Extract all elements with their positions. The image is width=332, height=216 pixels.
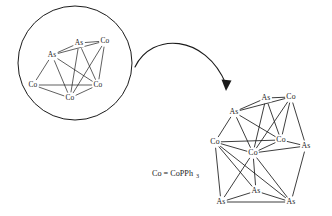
arrow-curve-line xyxy=(135,43,226,84)
magnification-arrow xyxy=(135,43,232,91)
atom-label-co: Co xyxy=(29,80,38,89)
cluster-diagram: AsCoAsCoCoCo AsCoAsCoCoCoAsAsAsAs Co = C… xyxy=(0,0,332,216)
atom-label-co: Co xyxy=(94,80,103,89)
figure-canvas: AsCoAsCoCoCo AsCoAsCoCoCoAsAsAsAs Co = C… xyxy=(0,0,332,216)
bond-as-as xyxy=(262,193,285,200)
bond-as-as xyxy=(293,152,305,196)
bond-co-as xyxy=(287,141,300,144)
atom-label-co: Co xyxy=(248,148,257,157)
inset-atom-group: AsCoAsCoCoCo xyxy=(28,36,111,102)
bond-as-co xyxy=(71,49,78,92)
bond-as-co xyxy=(85,41,99,42)
arrow-head-icon xyxy=(222,80,232,92)
bond-as-co xyxy=(54,61,67,93)
atom-label-co: Co xyxy=(286,92,295,101)
legend-label: Co = CoPPh xyxy=(152,169,193,178)
full-cluster: AsCoAsCoCoCoAsAsAsAs xyxy=(210,92,312,206)
legend: Co = CoPPh 3 xyxy=(152,169,199,179)
atom-label-as: As xyxy=(262,93,271,102)
bond-co-as xyxy=(253,159,255,185)
bond-co-as xyxy=(224,158,249,197)
atom-label-co: Co xyxy=(210,137,219,146)
bond-as-co xyxy=(82,49,96,80)
atom-label-as: As xyxy=(230,107,239,116)
bond-co-co xyxy=(39,87,64,96)
magnifier-circle xyxy=(18,6,132,120)
bond-as-co xyxy=(272,97,285,98)
bond-as-co xyxy=(237,118,251,148)
bond-as-co xyxy=(218,117,230,137)
bond-as-as xyxy=(227,193,250,200)
atom-label-co: Co xyxy=(101,36,110,45)
bond-as-co xyxy=(36,60,48,80)
atom-label-as: As xyxy=(252,186,261,195)
bond-co-co xyxy=(99,47,104,79)
atom-label-as: As xyxy=(48,50,56,59)
atom-label-as: As xyxy=(287,197,296,206)
bond-co-co xyxy=(259,143,276,151)
atom-label-as: As xyxy=(217,197,226,206)
atom-label-as: As xyxy=(75,38,83,47)
legend-subscript: 3 xyxy=(196,173,199,179)
magnified-inset: AsCoAsCoCoCo xyxy=(18,6,132,120)
atom-label-co: Co xyxy=(66,93,75,102)
bond-co-co xyxy=(76,88,93,96)
bond-co-as xyxy=(216,148,221,196)
bond-co-as xyxy=(293,103,304,140)
atom-label-as: As xyxy=(302,141,311,150)
atom-label-co: Co xyxy=(276,135,285,144)
bond-as-co xyxy=(268,104,279,134)
